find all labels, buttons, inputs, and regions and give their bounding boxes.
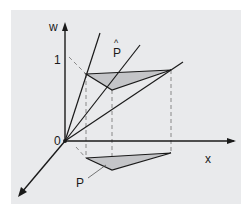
projection-diagram: w 1 0 x ^ P P <box>0 0 252 214</box>
origin-label: 0 <box>54 134 61 148</box>
x-axis-label: x <box>205 152 211 166</box>
projected-triangle <box>86 153 171 170</box>
w-axis-label: w <box>48 20 58 34</box>
rays-from-origin <box>65 33 183 141</box>
p-hat-label: P <box>113 46 121 60</box>
x-axis-arrow-icon <box>227 138 236 144</box>
tick-label-one: 1 <box>54 53 61 67</box>
p-label: P <box>76 176 84 190</box>
depth-axis <box>22 141 65 192</box>
w-axis-arrow-icon <box>62 22 68 31</box>
lifted-triangle <box>86 70 171 90</box>
p-leader-line <box>88 165 106 178</box>
origin-point <box>63 139 67 143</box>
